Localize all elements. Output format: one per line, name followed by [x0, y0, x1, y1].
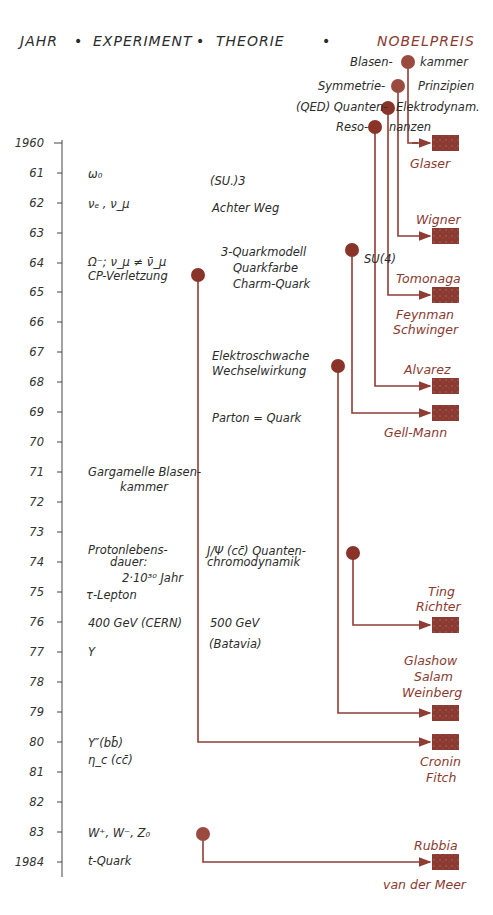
experiment-item: Ω⁻; ν_μ ≠ ν̄_μ: [88, 256, 166, 269]
theory-item: Wechselwirkung: [212, 365, 306, 378]
nobel-cronin: Cronin: [420, 754, 461, 769]
year-label: 65: [0, 285, 44, 299]
link-jpsi: [353, 557, 430, 625]
nobel-salam: Salam: [414, 669, 453, 684]
symmetrie-left: Symmetrie-: [318, 80, 385, 93]
nobel-wigner: Wigner: [416, 212, 461, 227]
nobel-feynman: Feynman: [396, 307, 454, 322]
theory-item: chromodynamik: [207, 556, 300, 569]
experiment-item: η_c (cc̄): [88, 754, 133, 767]
year-label: 63: [0, 226, 44, 240]
year-label: 64: [0, 256, 44, 270]
year-label: 62: [0, 196, 44, 210]
experiment-item: τ-Lepton: [86, 589, 137, 602]
year-label: 69: [0, 405, 44, 419]
year-label: 82: [0, 795, 44, 809]
year-label: 71: [0, 465, 44, 479]
axis-ticks: [54, 143, 62, 862]
link-wz: [203, 838, 430, 862]
link-qed: [388, 112, 430, 295]
nobel-fitch: Fitch: [426, 770, 456, 785]
theory-item: Achter Weg: [212, 202, 279, 215]
experiment-item: Υ″(bb̄): [88, 737, 123, 750]
experiment-item: 400 GeV (CERN): [88, 617, 182, 630]
theory-item: Elektroschwache: [212, 350, 309, 363]
qed-right: Elektrodynam.: [396, 101, 480, 114]
experiment-item: kammer: [120, 481, 168, 494]
year-label: 67: [0, 345, 44, 359]
theory-item: (SU.)3: [210, 175, 246, 188]
nobel-weinberg: Weinberg: [402, 685, 462, 700]
experiment-item: Υ: [88, 646, 95, 659]
nobel-richter: Richter: [416, 599, 461, 614]
qed-left: (QED) Quanten-: [296, 101, 388, 114]
year-label: 73: [0, 525, 44, 539]
year-label: 75: [0, 585, 44, 599]
symmetrie-right: Prinzipien: [418, 80, 474, 93]
experiment-item: CP-Verletzung: [88, 270, 168, 283]
year-label: 76: [0, 615, 44, 629]
year-label: 61: [0, 166, 44, 180]
experiment-item: W⁺, W⁻, Z₀: [88, 827, 150, 840]
theory-item: (Batavia): [209, 638, 262, 651]
timeline-graphics: [0, 0, 493, 915]
theory-su4: SU(4): [364, 253, 396, 266]
nobel-gell-mann: Gell-Mann: [384, 425, 447, 440]
discovery-dots: [191, 55, 415, 841]
year-label: 72: [0, 495, 44, 509]
blasenkammer-right: kammer: [420, 56, 468, 69]
blasenkammer-left: Blasen-: [350, 56, 393, 69]
year-label: 68: [0, 375, 44, 389]
year-label: 78: [0, 675, 44, 689]
experiment-item: t-Quark: [88, 855, 131, 868]
nobel-van-der-meer: van der Meer: [383, 877, 466, 892]
experiment-item: dauer:: [110, 556, 147, 569]
nobel-tomonaga: Tomonaga: [396, 271, 461, 286]
year-label: 83: [0, 825, 44, 839]
experiment-item: ω₀: [88, 168, 102, 181]
year-label: 81: [0, 765, 44, 779]
year-label: 80: [0, 735, 44, 749]
year-label: 74: [0, 555, 44, 569]
year-label: 66: [0, 315, 44, 329]
theory-item: 500 GeV: [210, 617, 259, 630]
theory-item: 3-Quarkmodell: [221, 246, 306, 259]
reso-left: Reso-: [336, 121, 368, 134]
year-label: 1984: [0, 855, 44, 869]
nobel-alvarez: Alvarez: [404, 362, 450, 377]
theory-item: Parton = Quark: [212, 412, 301, 425]
year-label: 1960: [0, 136, 44, 150]
theory-item: Charm-Quark: [233, 278, 310, 291]
year-label: 77: [0, 645, 44, 659]
nobel-glaser: Glaser: [410, 156, 450, 171]
experiment-item: Gargamelle Blasen-: [88, 466, 201, 479]
nobel-glashow: Glashow: [404, 653, 457, 668]
nobel-ting: Ting: [428, 584, 455, 599]
theory-item: Quarkfarbe: [233, 262, 298, 275]
year-label: 70: [0, 435, 44, 449]
experiment-item: νₑ , ν_μ: [88, 198, 130, 211]
experiment-item: 2·10³⁰ Jahr: [122, 572, 183, 585]
nobel-rubbia: Rubbia: [414, 838, 458, 853]
nobel-schwinger: Schwinger: [393, 322, 458, 337]
year-label: 79: [0, 705, 44, 719]
reso-right: nanzen: [389, 121, 431, 134]
